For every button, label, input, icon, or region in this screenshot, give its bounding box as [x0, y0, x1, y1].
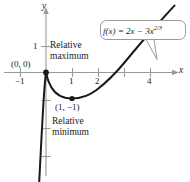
- minimum-point-label: (1, −1): [55, 102, 80, 112]
- origin-point-label: (0, 0): [11, 59, 31, 69]
- y-axis: [42, 7, 51, 176]
- relative-maximum-annotation: Relative maximum: [50, 40, 89, 62]
- y-axis-label: y: [42, 1, 46, 12]
- x-tick-label-minus1: −1: [15, 76, 25, 86]
- point-origin-marker: [43, 70, 49, 76]
- x-tick-label-1: 1: [69, 76, 74, 86]
- relative-minimum-line1: Relative: [52, 116, 89, 127]
- x-axis: [4, 68, 179, 77]
- y-tick-label-1: 1: [33, 41, 38, 51]
- x-tick-label-4: 4: [147, 76, 152, 86]
- relative-minimum-annotation: Relative minimum: [52, 116, 89, 138]
- function-equation-label: f(x) = 2x − 3x2/3: [103, 24, 162, 36]
- relative-maximum-line2: maximum: [50, 51, 89, 62]
- relative-maximum-line1: Relative: [50, 40, 89, 51]
- equation-base: f(x) = 2x − 3x: [103, 26, 154, 36]
- graph-figure: y x 1 −1 1 2 4 (0, 0) Relative maximum (…: [0, 0, 190, 182]
- point-minimum-marker: [69, 96, 74, 101]
- x-axis-label: x: [179, 65, 183, 76]
- relative-minimum-line2: minimum: [52, 127, 89, 138]
- equation-exponent: 2/3: [154, 24, 162, 31]
- x-tick-label-2: 2: [95, 76, 100, 86]
